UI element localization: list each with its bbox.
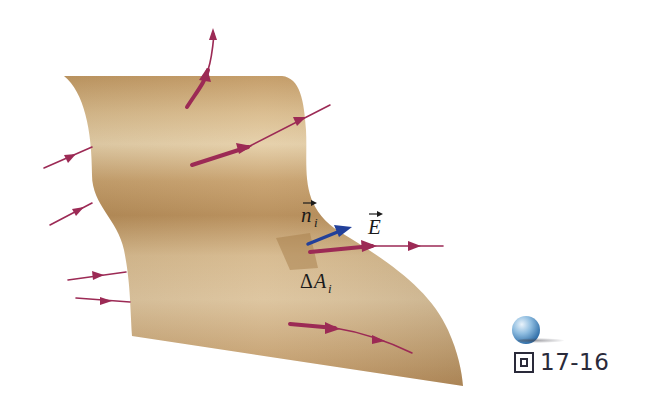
electric-flux-diagram: n i E Δ A i [0,0,665,409]
arrowhead-icon [408,241,421,251]
area-symbol: A [312,270,327,292]
arrowhead-icon [72,207,84,216]
arrowhead-icon [64,154,76,163]
sphere-shadow [518,338,564,343]
figure-number: 17-16 [540,349,609,375]
arrowhead-icon [209,28,217,40]
figure-caption: 17-16 [514,349,609,375]
normal-vector-subscript: i [314,215,318,230]
normal-vector-label: n i [301,200,318,230]
delta-symbol: Δ [300,270,313,292]
field-line [50,203,92,225]
arrowhead-icon [92,271,104,280]
figure-character-icon [514,352,534,373]
curved-surface [64,76,463,386]
arrowhead-icon [100,297,112,305]
field-vector-symbol: E [367,215,381,239]
area-subscript: i [328,281,332,296]
normal-vector-symbol: n [301,203,312,227]
field-vector-label: E [367,211,383,239]
